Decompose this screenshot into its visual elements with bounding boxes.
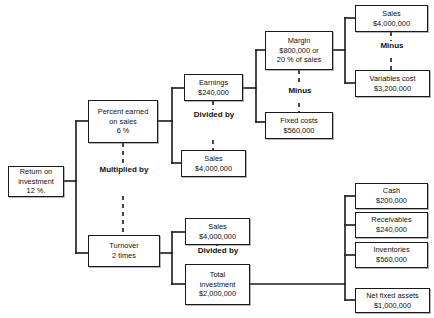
node-line: 2 times xyxy=(112,251,136,261)
node-line: $240,000 xyxy=(376,225,407,235)
turnover-box[interactable]: Turnover 2 times xyxy=(88,235,160,267)
operator-divided-by-upper: Divided by xyxy=(184,110,244,120)
operator-line: by xyxy=(229,246,238,255)
operator-line: Divided xyxy=(198,246,227,255)
node-line: 20 % of sales xyxy=(277,55,321,65)
operator-line: Divided xyxy=(194,110,223,119)
cash-box[interactable]: Cash $200,000 xyxy=(355,183,428,209)
node-line: Inventories xyxy=(373,245,409,255)
node-line: investment xyxy=(18,177,54,187)
node-line: $4,000,000 xyxy=(373,19,410,29)
node-line: Sales xyxy=(382,9,401,19)
node-line: $2,000,000 xyxy=(199,289,236,299)
operator-divided-by-lower: Divided by xyxy=(188,246,248,256)
earnings-box[interactable]: Earnings $240,000 xyxy=(184,74,243,101)
sales-lower-box[interactable]: Sales $4,000,000 xyxy=(185,218,250,245)
fixed-costs-box[interactable]: Fixed costs $560,000 xyxy=(265,112,333,139)
roi-diagram: Return on investment 12 %. Percent earne… xyxy=(0,0,434,318)
node-line: Cash xyxy=(383,186,400,196)
operator-line: by xyxy=(139,165,148,174)
node-line: Sales xyxy=(204,154,223,164)
node-line: Receivables xyxy=(371,215,411,225)
node-line: Earnings xyxy=(199,78,228,88)
operator-minus-sales: Minus xyxy=(363,41,421,51)
total-investment-box[interactable]: Total investment $2,000,000 xyxy=(185,264,250,305)
receivables-box[interactable]: Receivables $240,000 xyxy=(355,212,428,238)
node-line: Total xyxy=(210,270,226,280)
node-line: $4,000,000 xyxy=(195,164,232,174)
node-line: Variables cost xyxy=(370,74,416,84)
operator-line: by xyxy=(225,110,234,119)
node-line: 12 %. xyxy=(27,186,46,196)
percent-earned-on-sales-box[interactable]: Percent earned on sales 6 % xyxy=(88,100,158,143)
inventories-box[interactable]: Inventories $560,000 xyxy=(355,242,428,268)
node-line: Net fixed assets xyxy=(366,291,419,301)
node-line: on sales xyxy=(109,117,137,127)
node-line: $560,000 xyxy=(376,255,407,265)
node-line: $240,000 xyxy=(198,88,229,98)
operator-minus-margin: Minus xyxy=(271,86,329,96)
node-line: Sales xyxy=(208,222,227,232)
return-on-investment-box[interactable]: Return on investment 12 %. xyxy=(8,166,64,197)
operator-multiplied-by: Multiplied by xyxy=(90,165,158,175)
operator-line: Minus xyxy=(288,86,311,95)
node-line: $3,200,000 xyxy=(374,84,411,94)
variables-cost-box[interactable]: Variables cost $3,200,000 xyxy=(355,70,430,97)
node-line: investment xyxy=(200,280,236,290)
operator-line: Minus xyxy=(380,41,403,50)
node-line: Margin xyxy=(288,36,311,46)
node-line: $560,000 xyxy=(284,126,315,136)
node-line: Fixed costs xyxy=(280,116,317,126)
node-line: $4,000,000 xyxy=(199,232,236,242)
operator-line: Multiplied xyxy=(100,165,137,174)
node-line: Return on xyxy=(20,167,52,177)
sales-upper-box[interactable]: Sales $4,000,000 xyxy=(181,150,246,177)
node-line: $1,000,000 xyxy=(374,301,411,311)
node-line: Turnover xyxy=(109,241,138,251)
margin-box[interactable]: Margin $800,000 or 20 % of sales xyxy=(265,31,333,70)
node-line: Percent earned xyxy=(98,107,149,117)
node-line: 6 % xyxy=(117,126,130,136)
node-line: $800,000 or xyxy=(279,46,318,56)
sales-top-right-box[interactable]: Sales $4,000,000 xyxy=(355,5,428,32)
node-line: $200,000 xyxy=(376,196,407,206)
net-fixed-assets-box[interactable]: Net fixed assets $1,000,000 xyxy=(355,288,430,313)
